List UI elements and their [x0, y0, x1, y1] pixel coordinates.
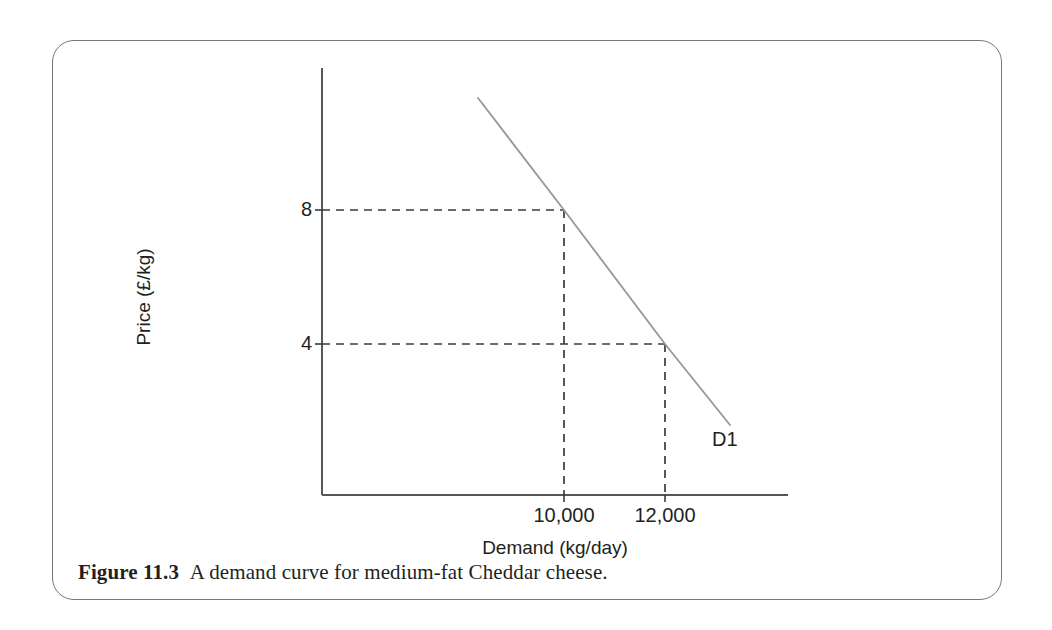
x-tick-label-12000: 12,000: [605, 504, 725, 527]
figure-caption-text: A demand curve for medium-fat Cheddar ch…: [190, 560, 608, 584]
y-tick-label-8: 8: [272, 198, 312, 221]
figure-caption-number: Figure 11.3: [78, 560, 179, 584]
y-tick-label-4: 4: [272, 332, 312, 355]
x-axis-title: Demand (kg/day): [435, 537, 675, 559]
demand-curve-label-d1: D1: [712, 428, 738, 451]
y-axis-title: Price (£/kg): [133, 137, 155, 457]
figure-caption: Figure 11.3 A demand curve for medium-fa…: [78, 560, 608, 585]
